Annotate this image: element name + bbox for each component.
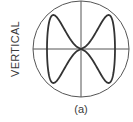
lissajous-diagram: VERTICAL (a) (0, 0, 133, 122)
vertical-axis-label: VERTICAL (9, 21, 21, 77)
figure-caption: (a) (74, 103, 87, 115)
